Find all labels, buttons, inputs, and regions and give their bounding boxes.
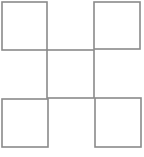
bottom-left-square xyxy=(2,99,48,147)
top-right-square xyxy=(94,2,140,49)
top-left-square xyxy=(2,2,47,50)
center-square xyxy=(47,50,94,98)
bottom-right-square xyxy=(95,98,141,147)
grid-squares-diagram xyxy=(0,0,144,157)
